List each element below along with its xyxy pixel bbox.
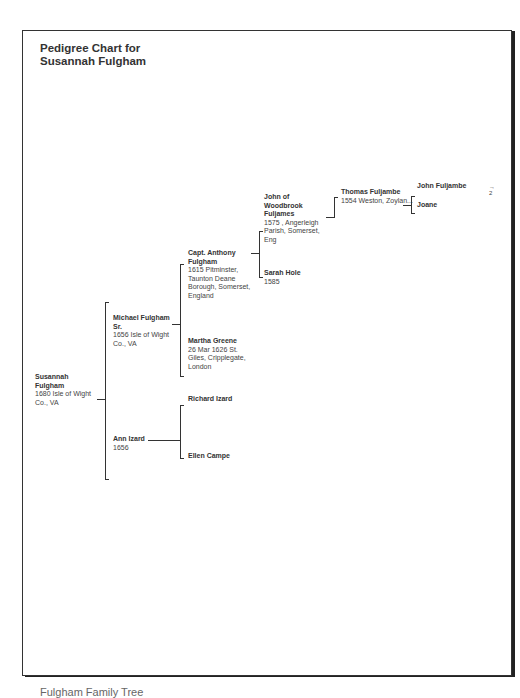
person-richard-izard[interactable]: Richard Izard bbox=[188, 395, 264, 404]
connector-line bbox=[251, 253, 259, 254]
person-name: Michael Fulgham bbox=[113, 314, 183, 323]
connector-line bbox=[180, 458, 184, 459]
person-name: Susannah bbox=[35, 373, 105, 382]
person-detail: Giles, Cripplegate, bbox=[188, 354, 264, 363]
person-martha-greene[interactable]: Martha Greene 26 Mar 1626 St. Giles, Cri… bbox=[188, 337, 264, 371]
person-sarah-hole[interactable]: Sarah Hole 1585 bbox=[264, 269, 336, 286]
connector-line bbox=[148, 440, 180, 441]
person-detail: Eng bbox=[264, 236, 336, 245]
connector-bracket bbox=[259, 231, 260, 278]
connector-line bbox=[334, 197, 338, 198]
person-capt-anthony-fulgham[interactable]: Capt. Anthony Fulgham 1615 Pitminster, T… bbox=[188, 249, 264, 301]
person-detail: 1585 bbox=[264, 278, 336, 287]
connector-line bbox=[259, 277, 263, 278]
person-name: Fulgham bbox=[188, 258, 264, 267]
person-detail: 1656 Isle of Wight bbox=[113, 331, 183, 340]
person-name: Sarah Hole bbox=[264, 269, 336, 278]
continuation-arrow-icon[interactable]: →2 bbox=[489, 184, 495, 196]
connector-bracket bbox=[180, 264, 181, 377]
connector-line bbox=[180, 405, 184, 406]
connector-line bbox=[326, 217, 334, 218]
person-name: Thomas Fuljambe bbox=[341, 188, 421, 197]
person-detail: Taunton Deane bbox=[188, 275, 264, 284]
person-susannah-fulgham[interactable]: Susannah Fulgham 1680 Isle of Wight Co.,… bbox=[35, 373, 105, 407]
person-detail: London bbox=[188, 363, 264, 372]
person-michael-fulgham-sr[interactable]: Michael Fulgham Sr. 1656 Isle of Wight C… bbox=[113, 314, 183, 348]
person-name: John of bbox=[264, 193, 336, 202]
person-ann-izard[interactable]: Ann Izard 1656 bbox=[113, 435, 183, 452]
connector-line bbox=[180, 376, 184, 377]
person-detail: 1656 bbox=[113, 444, 183, 453]
person-detail: Co., VA bbox=[113, 340, 183, 349]
person-detail: 1554 Weston, Zoylan... bbox=[341, 197, 421, 206]
person-detail: Parish, Somerset, bbox=[264, 227, 336, 236]
page-caption: Fulgham Family Tree bbox=[40, 686, 143, 698]
connector-bracket bbox=[105, 302, 106, 480]
person-detail: 1615 Pitminster, bbox=[188, 266, 264, 275]
person-name: Fulgham bbox=[35, 382, 105, 391]
connector-line bbox=[97, 399, 105, 400]
connector-line bbox=[411, 213, 415, 214]
connector-line bbox=[259, 231, 263, 232]
title-line-2: Susannah Fulgham bbox=[40, 55, 146, 68]
person-ellen-campe[interactable]: Ellen Campe bbox=[188, 452, 264, 461]
person-name: John Fuljambe bbox=[417, 182, 487, 191]
connector-line bbox=[172, 324, 180, 325]
connector-bracket bbox=[411, 196, 412, 214]
person-detail: 1680 Isle of Wight bbox=[35, 390, 105, 399]
connector-bracket bbox=[334, 197, 335, 218]
person-name: Martha Greene bbox=[188, 337, 264, 346]
person-name: Ellen Campe bbox=[188, 452, 264, 461]
connector-bracket bbox=[180, 405, 181, 459]
person-thomas-fuljambe[interactable]: Thomas Fuljambe 1554 Weston, Zoylan... bbox=[341, 188, 421, 205]
person-name: Woodbrook bbox=[264, 202, 336, 211]
connector-line bbox=[105, 302, 109, 303]
title-line-1: Pedigree Chart for bbox=[40, 42, 146, 55]
person-detail: 1575 , Angerleigh bbox=[264, 219, 336, 228]
person-detail: Co., VA bbox=[35, 399, 105, 408]
connector-line bbox=[105, 479, 109, 480]
connector-line bbox=[411, 196, 415, 197]
person-joane[interactable]: Joane bbox=[417, 201, 487, 210]
person-name: Richard Izard bbox=[188, 395, 264, 404]
chart-title: Pedigree Chart for Susannah Fulgham bbox=[40, 42, 146, 68]
person-john-of-woodbrook-fuljames[interactable]: John of Woodbrook Fuljames 1575 , Angerl… bbox=[264, 193, 336, 245]
pedigree-chart-page: Pedigree Chart for Susannah Fulgham Susa… bbox=[22, 30, 512, 676]
person-john-fuljambe[interactable]: John Fuljambe bbox=[417, 182, 487, 191]
person-detail: Borough, Somerset, bbox=[188, 283, 264, 292]
person-detail: 26 Mar 1626 St. bbox=[188, 346, 264, 355]
person-detail: England bbox=[188, 292, 264, 301]
connector-line bbox=[403, 205, 411, 206]
person-name: Joane bbox=[417, 201, 487, 210]
connector-line bbox=[180, 264, 184, 265]
